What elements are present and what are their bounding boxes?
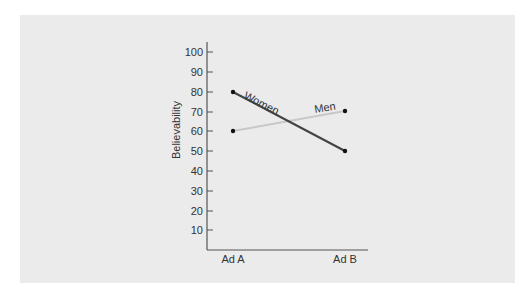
y-tick-label: 100 xyxy=(185,46,203,58)
women-point-ad-a xyxy=(231,90,235,94)
women-point-ad-b xyxy=(343,149,347,153)
men-point-ad-b xyxy=(343,109,347,113)
y-tick-label: 10 xyxy=(191,224,203,236)
x-tick-label-ad-b: Ad B xyxy=(333,253,357,265)
y-tick-label: 50 xyxy=(191,145,203,157)
y-tick-label: 90 xyxy=(191,66,203,78)
y-tick-label: 80 xyxy=(191,86,203,98)
y-tick-labels: 100 90 80 70 60 50 40 30 20 10 xyxy=(185,46,203,236)
y-tick-label: 20 xyxy=(191,205,203,217)
line-chart: 100 90 80 70 60 50 40 30 20 10 Believabi… xyxy=(0,0,530,295)
women-series-label: Women xyxy=(242,89,281,117)
y-tick-label: 70 xyxy=(191,106,203,118)
y-tick-label: 30 xyxy=(191,185,203,197)
x-tick-label-ad-a: Ad A xyxy=(221,253,245,265)
y-tick-label: 60 xyxy=(191,125,203,137)
y-ticks xyxy=(207,52,213,230)
men-point-ad-a xyxy=(231,129,235,133)
y-axis-label: Believability xyxy=(170,100,182,159)
y-tick-label: 40 xyxy=(191,165,203,177)
